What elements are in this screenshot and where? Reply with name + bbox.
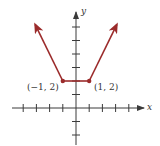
x-axis-label: x [147, 103, 152, 112]
point-label-left: (−1, 2) [27, 83, 59, 92]
axes [12, 12, 144, 145]
left-ray [35, 24, 63, 81]
coordinate-plane [0, 0, 160, 146]
point-marker [87, 79, 91, 83]
point-marker [61, 79, 65, 83]
right-ray [89, 24, 117, 81]
y-axis-label: y [81, 7, 86, 16]
point-label-right: (1, 2) [94, 83, 118, 92]
